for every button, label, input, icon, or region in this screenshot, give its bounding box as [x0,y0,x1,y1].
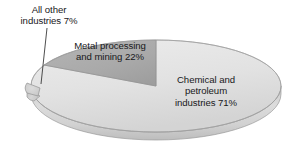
slice-label-metal-processing: Metal processing and mining 22% [56,40,164,63]
slice-label-all-other-industries: All other industries 7% [2,4,96,27]
slice-label-chemical-petroleum: Chemical and petroleum industries 71% [150,74,262,108]
pie-chart-figure: All other industries 7% Metal processing… [0,0,291,163]
